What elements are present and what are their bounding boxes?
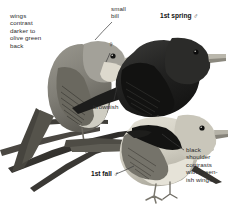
annotation-wings-contrast: wings contrast darker to olive green bac…	[10, 12, 41, 49]
bird-identification-plate: wings contrast darker to olive green bac…	[0, 0, 228, 208]
leader-small-bill	[95, 22, 112, 40]
annotation-small-bill: small bill	[111, 5, 126, 20]
annotation-first-fall-male: 1st fall ♂	[91, 170, 119, 177]
annotation-female-symbol: ♀	[108, 41, 114, 48]
annotation-black-shoulder: black shoulder contrasts with green- ish…	[186, 146, 218, 183]
annotation-brownish: brownish	[93, 103, 119, 110]
annotation-first-spring-male: 1st spring ♂	[160, 12, 198, 19]
